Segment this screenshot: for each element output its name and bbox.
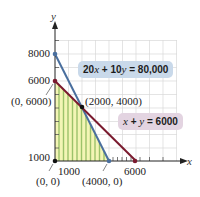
y-tick-8000: 8000: [28, 48, 50, 59]
y-tick-1000: 1000: [28, 152, 50, 163]
equation-label-x-y-6000: x + y = 6000: [118, 113, 183, 130]
annotation-0-0: (0, 0): [36, 176, 60, 187]
point-0-6000: [53, 79, 58, 84]
point-2000-4000: [80, 105, 85, 110]
annotation-2000-4000: (2000, 4000): [85, 96, 142, 107]
x-tick-6000: 6000: [124, 166, 146, 177]
x-axis-minor-ticks: [113, 157, 163, 161]
eq-text: +: [128, 116, 139, 127]
y-axis-arrow-icon: [52, 21, 58, 29]
annotation-4000-0: (4000, 0): [82, 176, 122, 187]
eq-text: + 10: [99, 64, 122, 75]
annotation-0-6000: (0, 6000): [11, 96, 51, 107]
point-4000-0: [107, 159, 112, 164]
y-tick-6000: 6000: [28, 75, 50, 86]
eq-text: = 80,000: [126, 64, 168, 75]
point-0-0: [53, 159, 58, 164]
eq-text: 20: [83, 64, 94, 75]
y-axis-label: y: [51, 11, 56, 22]
x-axis-label: x: [187, 156, 192, 167]
eq-text: = 6000: [144, 116, 178, 127]
equation-label-20x-10y: 20x + 10y = 80,000: [78, 61, 173, 78]
point-6000-0: [133, 159, 138, 164]
point-0-8000: [53, 52, 58, 57]
x-tick-1000: 1000: [58, 166, 80, 177]
